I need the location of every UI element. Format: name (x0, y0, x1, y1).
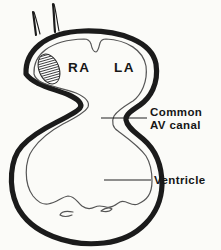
venous-channel-left-icon (33, 12, 40, 35)
ventricle-label: Ventricle (154, 174, 206, 186)
heart-diagram-figure: RA LA Common AV canal Ventricle (0, 0, 221, 250)
trabecula-right-icon (101, 208, 112, 212)
venous-channel-right-icon (53, 4, 59, 32)
right-atrium-label: RA (68, 60, 91, 75)
av-canal-label-line2: AV canal (150, 119, 201, 131)
left-atrium-label: LA (114, 60, 135, 75)
av-canal-label-line1: Common (150, 106, 202, 118)
heart-diagram-svg: RA LA Common AV canal Ventricle (0, 0, 221, 250)
trabecula-left-icon (60, 211, 73, 216)
